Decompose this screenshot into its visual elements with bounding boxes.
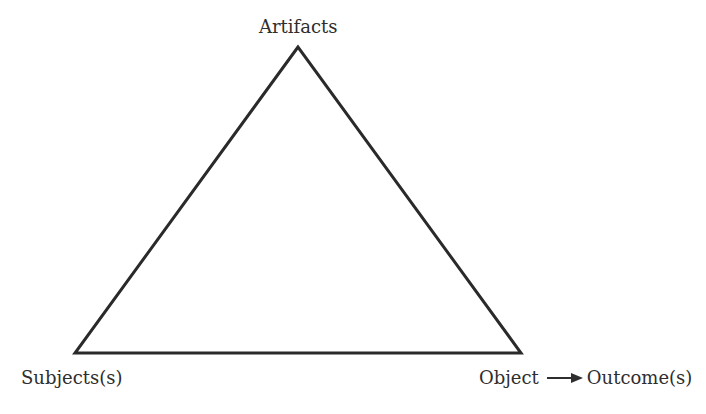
object-label: Object bbox=[479, 369, 539, 387]
subjects-label: Subjects(s) bbox=[21, 369, 123, 387]
artifacts-label: Artifacts bbox=[259, 18, 338, 36]
object-outcome-group: Object Outcome(s) bbox=[479, 369, 692, 387]
right-arrow-icon bbox=[547, 371, 583, 385]
triangle-shape bbox=[75, 47, 521, 353]
activity-triangle-diagram: Artifacts Subjects(s) Object Outcome(s) bbox=[0, 0, 706, 414]
triangle-canvas bbox=[0, 0, 706, 414]
outcome-label: Outcome(s) bbox=[587, 369, 693, 387]
